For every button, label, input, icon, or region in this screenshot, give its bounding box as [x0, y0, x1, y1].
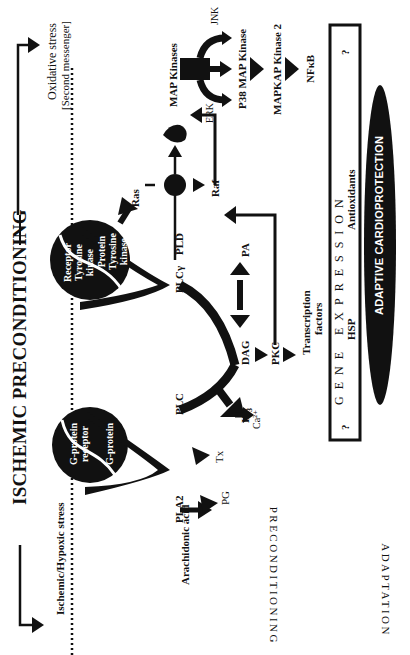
stimulus-second-messenger: [Second messenger] — [60, 21, 71, 110]
node-transcription-factors: Transcription factors — [300, 290, 324, 355]
node-plc: PLC — [174, 393, 185, 415]
gprotein-receptor-label: G-protein receptor — [68, 423, 90, 465]
node-ip3: IP3 — [240, 408, 254, 423]
gene-expression-label: GENE EXPRESSION — [333, 192, 345, 405]
rtk-label: Receptor Tyrosine kinase — [62, 243, 95, 282]
gene-hsp: HSP — [346, 319, 357, 340]
stimulus-oxidative: Oxidative stress — [46, 23, 58, 100]
gprotein-label: G-protein — [104, 423, 115, 465]
node-mapkap2: MAPKAP Kinase 2 — [272, 24, 283, 115]
node-pg: PG — [220, 491, 231, 505]
side-label-preconditioning: PRECONDITIONING — [268, 507, 279, 645]
gene-q-right: ? — [340, 50, 351, 56]
tx-arrowhead — [192, 447, 210, 465]
diagram-canvas: ISCHEMIC PRECONDITIONING Ischemic/Hypoxi… — [0, 0, 410, 655]
plcg-dag-arrow — [180, 285, 235, 365]
ischemic-arrow-head — [32, 617, 44, 633]
gene-antioxidants: Antioxidants — [346, 169, 357, 230]
node-pkc: PKC — [270, 342, 281, 365]
node-nfkb: NFκB — [305, 55, 316, 83]
gene-q-left: ? — [340, 425, 351, 431]
ras-raf-node — [164, 174, 186, 196]
node-raf: Raf — [210, 180, 221, 197]
node-dag: DAG — [240, 341, 251, 365]
node-pld: PLD — [174, 233, 185, 255]
pkc-raf-arrowhead — [224, 206, 236, 224]
erk-node — [163, 125, 187, 143]
node-jnk: JNK — [210, 7, 220, 25]
node-pa: PA — [240, 243, 251, 257]
outcome-label: ADAPTIVE CARDIOPROTECTION — [374, 136, 385, 315]
node-p38: P38 MAP Kinase — [237, 29, 248, 109]
side-label-adaptation: ADAPTATION — [380, 543, 391, 637]
oxidative-arrow-head — [28, 37, 40, 53]
stimulus-ischemic: Ischemic/Hypoxic stress — [55, 502, 66, 615]
node-ras: Ras — [130, 189, 141, 207]
node-erk: ERK — [205, 103, 215, 123]
node-map-kinases: MAP Kinases — [168, 43, 179, 107]
ptk-label: Protein Tyrosine kinase — [96, 233, 129, 270]
map-kinases-block — [180, 58, 210, 80]
node-arachidonic-acid: Arachidonic acid — [180, 505, 191, 585]
node-tx: Tx — [214, 451, 225, 463]
node-plcg: PLCγ — [174, 266, 185, 293]
diagram-title: ISCHEMIC PRECONDITIONING — [10, 209, 29, 505]
